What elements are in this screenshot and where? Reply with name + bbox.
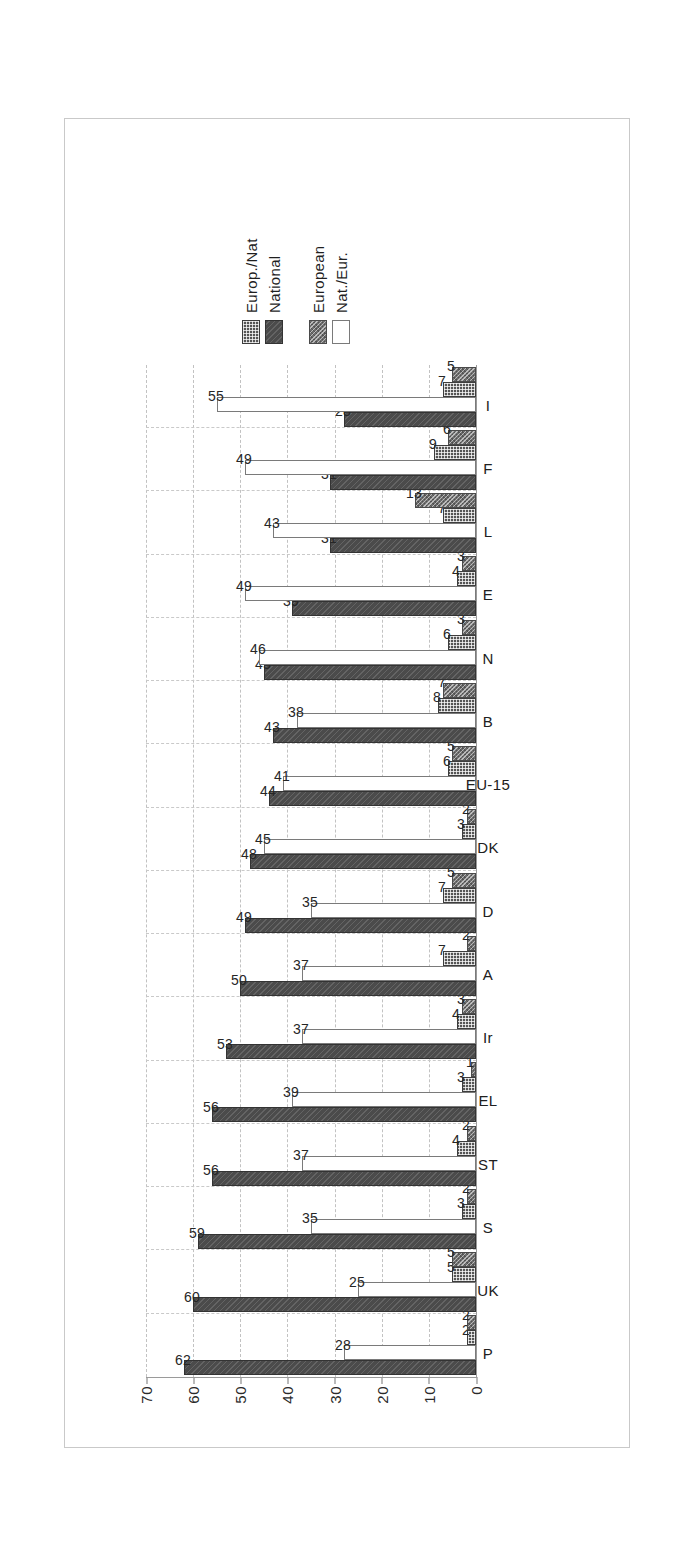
bar-value-label: 3 xyxy=(456,815,464,831)
bar-europnat: 8 xyxy=(438,697,476,712)
bar-european: 5 xyxy=(452,872,476,887)
category-label: B xyxy=(482,712,492,729)
category-label: L xyxy=(483,523,492,540)
bar-value-label: 41 xyxy=(273,767,289,783)
bar-value-label: 37 xyxy=(292,1147,308,1163)
bar-nateur: 25 xyxy=(358,1282,476,1297)
bar-nateur: 38 xyxy=(296,712,475,727)
bar-group: 563742ST xyxy=(146,1124,476,1187)
plot-area-wrapper: 010203040506070 622822P602555UK593532S56… xyxy=(146,364,552,1424)
bar-europnat: 9 xyxy=(433,444,475,459)
bar-nateur: 37 xyxy=(301,1155,475,1170)
bar-value-label: 6 xyxy=(442,752,450,768)
bar-group: 622822P xyxy=(146,1313,476,1376)
bar-value-label: 44 xyxy=(259,782,275,798)
bar-value-label: 55 xyxy=(207,388,223,404)
bar-group: 433887B xyxy=(146,681,476,744)
bar-value-label: 8 xyxy=(433,689,441,705)
bar-value-label: 5 xyxy=(447,358,455,374)
plot-area: 622822P602555UK593532S563742ST563931EL53… xyxy=(146,365,477,1378)
bar-group: 394943E xyxy=(146,554,476,617)
bar-nateur: 28 xyxy=(344,1345,476,1360)
category-label: F xyxy=(483,459,493,476)
european-swatch xyxy=(309,320,327,344)
bar-value-label: 35 xyxy=(301,894,317,910)
legend-group-right: Europ./NatNational xyxy=(242,144,283,344)
bar-national: 56 xyxy=(212,1170,476,1185)
bar-european: 6 xyxy=(447,429,475,444)
bar-chart-figure: 010203040506070 622822P602555UK593532S56… xyxy=(146,136,552,1424)
bar-nateur: 35 xyxy=(311,902,476,917)
bar-national: 31 xyxy=(329,538,475,553)
bar-european: 5 xyxy=(452,1252,476,1267)
national-swatch xyxy=(265,320,283,344)
bar-value-label: 35 xyxy=(301,1210,317,1226)
bar-value-label: 46 xyxy=(250,641,266,657)
bar-value-label: 37 xyxy=(292,1020,308,1036)
bar-europnat: 7 xyxy=(443,508,476,523)
bar-value-label: 25 xyxy=(349,1273,365,1289)
bar-groups: 622822P602555UK593532S563742ST563931EL53… xyxy=(146,365,476,1377)
legend-entry: European xyxy=(309,144,327,344)
bar-european: 7 xyxy=(443,682,476,697)
y-tick-label: 40 xyxy=(278,1386,295,1404)
bar-nateur: 37 xyxy=(301,965,475,980)
bar-national: 28 xyxy=(344,411,476,426)
bar-value-label: 28 xyxy=(334,1336,350,1352)
legend-entry: National xyxy=(265,144,283,344)
bar-national: 44 xyxy=(268,791,475,806)
bar-national: 50 xyxy=(240,980,476,995)
bar-group: 314996F xyxy=(146,428,476,491)
bar-europnat: 6 xyxy=(447,634,475,649)
bar-nateur: 46 xyxy=(259,649,476,664)
bar-value-label: 7 xyxy=(437,942,445,958)
bar-value-label: 62 xyxy=(174,1351,190,1367)
bar-group: 563931EL xyxy=(146,1060,476,1123)
bar-national: 45 xyxy=(263,664,475,679)
category-label: Ir xyxy=(483,1029,493,1046)
bar-value-label: 53 xyxy=(217,1035,233,1051)
legend-entry: Nat./Eur. xyxy=(332,144,350,344)
category-label: UK xyxy=(477,1282,499,1299)
bar-value-label: 9 xyxy=(428,436,436,452)
bar-value-label: 60 xyxy=(184,1288,200,1304)
bar-value-label: 4 xyxy=(452,562,460,578)
category-label: EU-15 xyxy=(465,776,510,793)
bar-value-label: 48 xyxy=(240,845,256,861)
bar-european: 2 xyxy=(466,1188,475,1203)
bar-value-label: 49 xyxy=(235,577,251,593)
bar-value-label: 7 xyxy=(437,879,445,895)
bar-value-label: 4 xyxy=(452,1132,460,1148)
bar-value-label: 45 xyxy=(254,830,270,846)
bar-group: 493575D xyxy=(146,871,476,934)
bar-national: 60 xyxy=(193,1297,476,1312)
bar-national: 39 xyxy=(292,601,476,616)
bar-value-label: 43 xyxy=(264,719,280,735)
bar-europnat: 4 xyxy=(457,571,476,586)
bar-european: 2 xyxy=(466,1315,475,1330)
legend: Europ./NatNational EuropeanNat./Eur. xyxy=(242,144,350,344)
bar-europnat: 4 xyxy=(457,1014,476,1029)
bar-european: 2 xyxy=(466,809,475,824)
category-label: I xyxy=(485,396,490,413)
bar-nateur: 55 xyxy=(216,396,475,411)
bar-european: 5 xyxy=(452,746,476,761)
y-tick-label: 70 xyxy=(137,1386,154,1404)
bar-europnat: 6 xyxy=(447,761,475,776)
bar-value-label: 43 xyxy=(264,514,280,530)
bar-european: 2 xyxy=(466,1125,475,1140)
bar-group: 285575I xyxy=(146,365,476,428)
y-tick-label: 50 xyxy=(231,1386,248,1404)
bar-value-label: 59 xyxy=(188,1225,204,1241)
bar-group: 454663N xyxy=(146,618,476,681)
bar-european: 13 xyxy=(414,493,475,508)
europnat-swatch xyxy=(242,320,260,344)
bar-european: 3 xyxy=(461,556,475,571)
bar-national: 62 xyxy=(183,1360,475,1375)
bar-value-label: 38 xyxy=(287,704,303,720)
category-label: DK xyxy=(477,839,499,856)
bar-europnat: 2 xyxy=(466,1330,475,1345)
bar-europnat: 3 xyxy=(461,824,475,839)
y-tick-label: 0 xyxy=(467,1386,484,1395)
category-label: D xyxy=(482,902,493,919)
